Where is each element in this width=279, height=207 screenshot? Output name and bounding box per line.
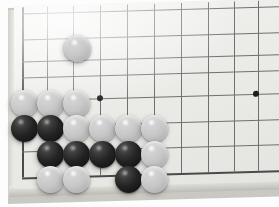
go-board-scene	[0, 0, 279, 207]
white-stone[interactable]	[37, 90, 64, 117]
white-stone[interactable]	[89, 115, 116, 142]
black-stone[interactable]	[115, 166, 142, 193]
black-stone[interactable]	[37, 115, 64, 142]
white-stone[interactable]	[37, 166, 64, 193]
stones-layer	[0, 0, 279, 207]
white-stone[interactable]	[63, 115, 90, 142]
white-stone[interactable]	[11, 90, 38, 117]
white-stone[interactable]	[141, 141, 168, 168]
black-stone[interactable]	[63, 141, 90, 168]
white-stone[interactable]	[63, 166, 90, 193]
white-stone[interactable]	[141, 166, 168, 193]
white-stone[interactable]	[63, 90, 90, 117]
black-stone[interactable]	[11, 115, 38, 142]
black-stone[interactable]	[37, 141, 64, 168]
black-stone[interactable]	[115, 141, 142, 168]
white-stone-top[interactable]	[64, 35, 91, 62]
white-stone[interactable]	[141, 115, 168, 142]
black-stone[interactable]	[89, 141, 116, 168]
white-stone[interactable]	[115, 115, 142, 142]
